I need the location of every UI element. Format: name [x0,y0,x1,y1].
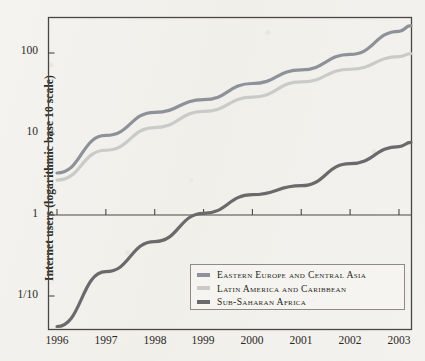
legend-swatch-sub-saharan-africa [197,300,210,304]
chart-legend: Eastern Europe and Central Asia Latin Am… [190,264,405,310]
legend-label-sub-saharan-africa: Sub-Saharan Africa [217,296,306,307]
legend-item-sub-saharan-africa: Sub-Saharan Africa [197,295,404,309]
legend-label-latin-america: Latin America and Caribbean [217,283,346,294]
legend-label-eastern-europe: Eastern Europe and Central Asia [217,269,366,280]
x-tick-marks [57,209,399,215]
y-tick-marks [49,53,55,296]
internet-users-line-chart: Internet users (logarithmic base 10 scal… [0,0,425,361]
legend-item-latin-america: Latin America and Caribbean [197,282,404,296]
legend-swatch-latin-america [197,286,210,290]
legend-swatch-eastern-europe [197,273,210,277]
series-line-latin-america-and-caribbean [57,54,411,180]
legend-item-eastern-europe: Eastern Europe and Central Asia [197,268,404,282]
